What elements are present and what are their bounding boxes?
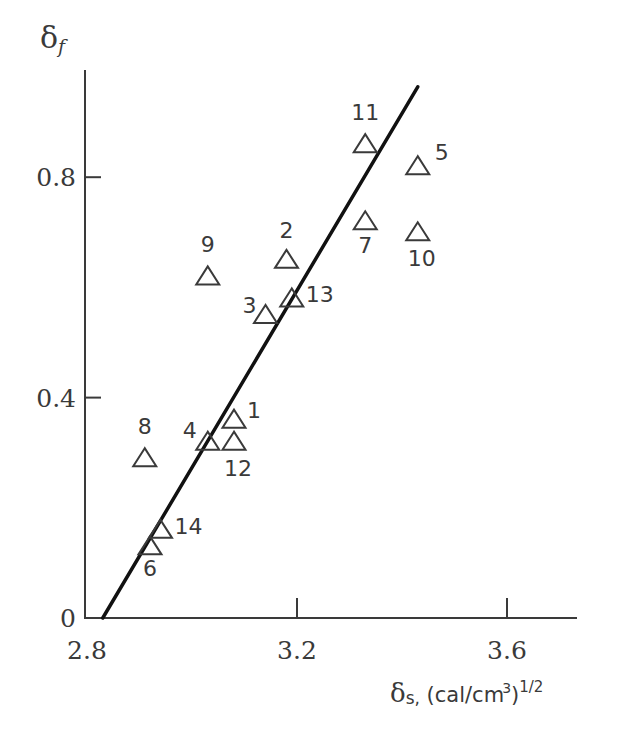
point-label: 12 [224, 456, 252, 481]
triangle-marker-icon [406, 222, 429, 240]
axes [84, 70, 577, 619]
point-label: 2 [280, 218, 294, 243]
data-point-7: 7 [354, 211, 377, 258]
point-label: 10 [408, 246, 436, 271]
point-label: 6 [143, 556, 157, 581]
y-axis-title: δf [40, 20, 68, 57]
point-label: 11 [351, 100, 379, 125]
data-point-1: 1 [223, 398, 262, 428]
data-point-9: 9 [196, 232, 219, 284]
y-ticks: 00.40.8 [36, 163, 101, 633]
triangle-marker-icon [133, 448, 156, 466]
triangle-marker-icon [223, 432, 246, 450]
x-ticks: 2.83.23.6 [67, 598, 527, 665]
data-point-12: 12 [223, 432, 253, 481]
data-point-6: 6 [139, 536, 162, 581]
x-tick-label: 3.6 [487, 636, 527, 665]
x-axis-title: δs, (cal/cm3)1/2 [390, 678, 543, 708]
point-label: 8 [138, 414, 152, 439]
data-point-2: 2 [275, 218, 298, 268]
data-point-11: 11 [351, 100, 379, 152]
data-points: 1234567891011121314 [133, 100, 449, 581]
y-tick-label: 0.4 [36, 384, 76, 413]
y-tick-label: 0.8 [36, 163, 76, 192]
triangle-marker-icon [275, 250, 298, 268]
triangle-marker-icon [354, 211, 377, 229]
point-label: 13 [306, 282, 334, 307]
point-label: 9 [201, 232, 215, 257]
triangle-marker-icon [406, 156, 429, 174]
triangle-marker-icon [354, 134, 377, 152]
point-label: 3 [243, 293, 257, 318]
point-label: 14 [175, 514, 203, 539]
point-label: 1 [247, 398, 261, 423]
data-point-10: 10 [406, 222, 436, 271]
x-tick-label: 2.8 [67, 636, 107, 665]
point-label: 7 [358, 233, 372, 258]
data-point-3: 3 [243, 293, 278, 323]
point-label: 5 [435, 140, 449, 165]
data-point-14: 14 [149, 514, 203, 539]
y-tick-label: 0 [60, 604, 76, 633]
data-point-8: 8 [133, 414, 156, 466]
data-point-5: 5 [406, 140, 449, 174]
triangle-marker-icon [196, 266, 219, 284]
point-label: 4 [183, 418, 197, 443]
x-tick-label: 3.2 [277, 636, 317, 665]
triangle-marker-icon [254, 305, 277, 323]
scatter-chart: 00.40.8 2.83.23.6 1234567891011121314 δf… [0, 0, 624, 731]
